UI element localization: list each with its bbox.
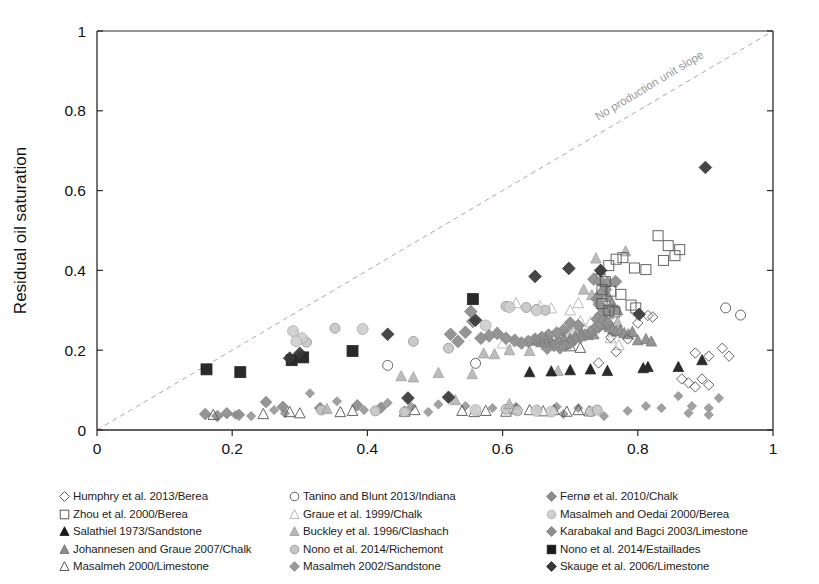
axis-ticks: 00.20.40.60.8100.20.40.60.81: [64, 23, 777, 458]
marker-diamond: [381, 328, 394, 341]
marker-circle: [288, 326, 299, 337]
series-karabakal-and-bagci-2003-limestone: [199, 396, 386, 421]
marker-circle: [546, 406, 557, 417]
marker-triangle: [673, 361, 684, 371]
marker-square: [547, 545, 556, 554]
marker-triangle: [396, 371, 407, 381]
marker-circle: [736, 310, 746, 320]
legend-label: Masalmeh 2000/Limestone: [73, 560, 209, 573]
y-tick-label: 1: [77, 23, 86, 40]
marker-diamond: [677, 374, 687, 384]
legend-column-2: Tanino and Blunt 2013/IndianaGraue et al…: [288, 488, 538, 576]
marker-diamond: [459, 326, 472, 339]
marker-circle: [480, 320, 491, 331]
legend-item-masalmeh-2000-limestone[interactable]: Masalmeh 2000/Limestone: [58, 558, 288, 576]
marker-triangle: [602, 365, 613, 375]
x-tick-label: 1: [769, 440, 778, 457]
marker-diamond: [714, 393, 723, 402]
legend-marker-square-icon: [545, 543, 558, 556]
marker-diamond: [332, 397, 341, 406]
legend-item-karabakal-bagci-2003-limestone[interactable]: Karabakal and Bagci 2003/Limestone: [545, 523, 815, 541]
y-tick-label: 0.2: [64, 342, 86, 359]
marker-triangle: [60, 562, 69, 571]
marker-square: [467, 294, 478, 305]
marker-diamond: [290, 562, 300, 572]
marker-diamond: [402, 392, 415, 405]
marker-diamond: [559, 409, 568, 418]
chart-legend: Humphry et al. 2013/BereaZhou et al. 200…: [0, 488, 819, 584]
marker-square: [653, 231, 663, 241]
legend-marker-triangle-icon: [58, 543, 71, 556]
marker-square: [629, 263, 639, 273]
marker-triangle: [585, 364, 596, 374]
marker-diamond: [260, 396, 272, 408]
legend-marker-diamond-icon: [288, 560, 301, 573]
marker-triangle: [504, 398, 515, 408]
marker-triangle: [335, 406, 346, 416]
marker-circle: [547, 510, 556, 519]
marker-triangle: [489, 349, 500, 359]
marker-diamond: [690, 382, 700, 392]
marker-diamond: [60, 492, 70, 502]
legend-marker-diamond-icon: [545, 525, 558, 538]
marker-triangle: [524, 367, 535, 377]
marker-diamond: [647, 312, 657, 322]
marker-triangle: [478, 348, 489, 358]
marker-square: [201, 364, 212, 375]
marker-circle: [400, 407, 410, 417]
marker-triangle: [467, 369, 478, 379]
legend-item-buckley-1996-clashach[interactable]: Buckley et al. 1996/Clashach: [288, 523, 538, 541]
scatter-chart: No production unit slope00.20.40.60.8100…: [0, 0, 819, 470]
legend-column-3: Fernø et al. 2010/ChalkMasalmeh and Oeda…: [545, 488, 815, 576]
marker-square: [663, 241, 673, 251]
x-axis-title: Initial oil saturation: [365, 467, 506, 470]
marker-diamond: [717, 343, 727, 353]
marker-triangle: [591, 253, 602, 263]
legend-item-tanino-blunt-2013-indiana[interactable]: Tanino and Blunt 2013/Indiana: [288, 488, 538, 506]
legend-label: Fernø et al. 2010/Chalk: [560, 490, 678, 503]
legend-item-humphry-2013-berea[interactable]: Humphry et al. 2013/Berea: [58, 488, 288, 506]
marker-square: [658, 255, 668, 265]
marker-circle: [721, 303, 731, 313]
legend-item-masalmeh-2002-sandstone[interactable]: Masalmeh 2002/Sandstone: [288, 558, 538, 576]
marker-triangle: [258, 408, 269, 418]
y-tick-label: 0.8: [64, 102, 86, 119]
y-axis-title: Residual oil saturation: [11, 147, 30, 314]
marker-triangle: [295, 408, 306, 418]
marker-diamond: [424, 407, 433, 416]
y-tick-label: 0: [77, 422, 86, 439]
legend-marker-triangle-icon: [288, 525, 301, 538]
plot-canvas: No production unit slope00.20.40.60.8100…: [0, 0, 819, 470]
x-tick-label: 0.6: [492, 440, 514, 457]
legend-item-salathiel-1973-sandstone[interactable]: Salathiel 1973/Sandstone: [58, 523, 288, 541]
marker-diamond: [683, 378, 693, 388]
legend-item-nono-2014-richemont[interactable]: Nono et al. 2014/Richemont: [288, 541, 538, 559]
legend-item-zhou-2000-berea[interactable]: Zhou et al. 2000/Berea: [58, 506, 288, 524]
marker-circle: [371, 406, 381, 416]
x-tick-label: 0.2: [221, 440, 243, 457]
marker-circle: [470, 405, 481, 416]
legend-label: Nono et al. 2014/Estaillades: [560, 543, 700, 556]
marker-triangle: [573, 298, 584, 308]
legend-item-nono-2014-estaillades[interactable]: Nono et al. 2014/Estaillades: [545, 541, 815, 559]
legend-label: Humphry et al. 2013/Berea: [73, 490, 208, 503]
legend-marker-circle-icon: [288, 543, 301, 556]
legend-item-ferno-2010-chalk[interactable]: Fernø et al. 2010/Chalk: [545, 488, 815, 506]
marker-circle: [471, 358, 481, 368]
x-tick-label: 0.4: [357, 440, 379, 457]
annotation-no-production-unit-slope: No production unit slope: [593, 48, 705, 122]
legend-item-graue-1999-chalk[interactable]: Graue et al. 1999/Chalk: [288, 506, 538, 524]
legend-marker-circle-icon: [545, 508, 558, 521]
legend-label: Masalmeh and Oedai 2000/Berea: [560, 508, 729, 521]
marker-triangle: [408, 372, 419, 382]
marker-diamond: [221, 407, 233, 419]
legend-item-skauge-2006-limestone[interactable]: Skauge et al. 2006/Limestone: [545, 558, 815, 576]
unit-slope-reference-line: [97, 31, 773, 430]
marker-circle: [531, 305, 542, 316]
legend-item-masalmeh-oedai-2000-berea[interactable]: Masalmeh and Oedai 2000/Berea: [545, 506, 815, 524]
marker-diamond: [547, 492, 557, 502]
legend-item-johannesen-graue-2007-chalk[interactable]: Johannesen and Graue 2007/Chalk: [58, 541, 288, 559]
legend-label: Graue et al. 1999/Chalk: [303, 508, 422, 521]
legend-label: Johannesen and Graue 2007/Chalk: [73, 543, 251, 556]
series-masalmeh-and-oedai-2000-berea: [288, 302, 580, 418]
